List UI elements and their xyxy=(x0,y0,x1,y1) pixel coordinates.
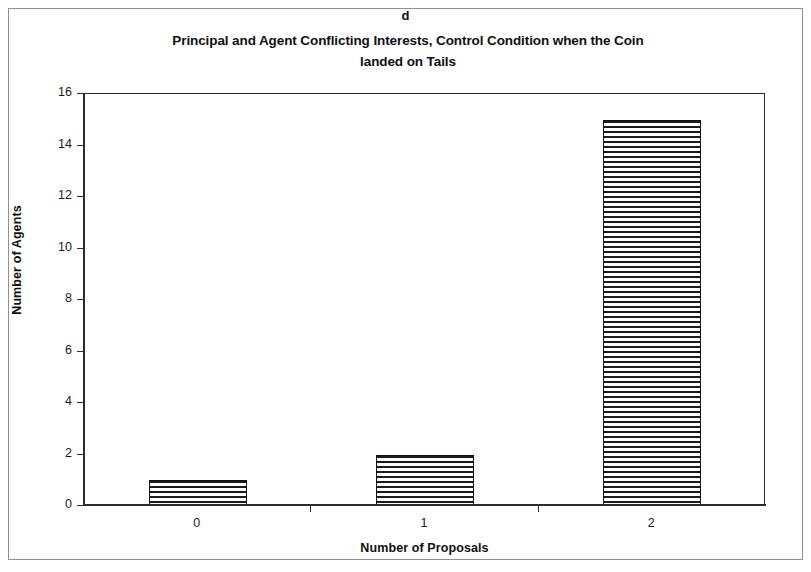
chart-figure: d Principal and Agent Conflicting Intere… xyxy=(0,0,811,572)
y-tick-6: 6 xyxy=(0,351,72,352)
x-tick-label-0: 0 xyxy=(137,516,257,530)
x-tick-label-2: 2 xyxy=(591,516,711,530)
y-tick-label: 16 xyxy=(14,85,72,99)
panel-letter-label: d xyxy=(0,8,811,23)
bar-1 xyxy=(376,455,474,507)
y-tick-label: 14 xyxy=(14,137,72,151)
y-tick-label: 6 xyxy=(14,343,72,357)
y-tick-4: 4 xyxy=(0,402,72,403)
x-tick-mark xyxy=(538,505,539,512)
x-axis-line xyxy=(83,504,766,506)
y-tick-label: 0 xyxy=(14,497,72,511)
y-tick-label: 4 xyxy=(14,394,72,408)
x-tick-label-1: 1 xyxy=(364,516,484,530)
y-tick-label: 10 xyxy=(14,240,72,254)
plot-area xyxy=(83,93,765,505)
bar-0 xyxy=(149,480,247,506)
y-tick-label: 12 xyxy=(14,188,72,202)
y-tick-label: 8 xyxy=(14,291,72,305)
y-axis-title: Number of Agents xyxy=(10,180,24,340)
chart-title: Principal and Agent Conflicting Interest… xyxy=(88,30,728,72)
chart-title-line-2: landed on Tails xyxy=(88,51,728,72)
y-tick-12: 12 xyxy=(0,196,72,197)
y-tick-0: 0 xyxy=(0,505,72,506)
x-tick-mark xyxy=(310,505,311,512)
y-tick-label: 2 xyxy=(14,446,72,460)
y-tick-8: 8 xyxy=(0,299,72,300)
y-axis-line xyxy=(83,93,85,506)
y-tick-14: 14 xyxy=(0,145,72,146)
x-axis-title: Number of Proposals xyxy=(83,541,766,555)
chart-title-line-1: Principal and Agent Conflicting Interest… xyxy=(88,30,728,51)
y-tick-2: 2 xyxy=(0,454,72,455)
y-tick-10: 10 xyxy=(0,248,72,249)
bar-2 xyxy=(603,120,701,506)
y-tick-16: 16 xyxy=(0,93,72,94)
